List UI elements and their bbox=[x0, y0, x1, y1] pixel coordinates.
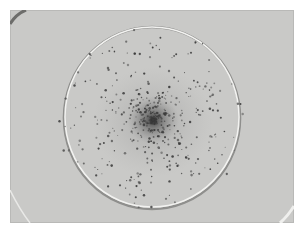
dish-edge-top-left bbox=[10, 10, 26, 24]
dish-illustration bbox=[10, 10, 294, 223]
dish-photo bbox=[10, 10, 294, 223]
dish-edge-bottom-right bbox=[280, 206, 294, 223]
